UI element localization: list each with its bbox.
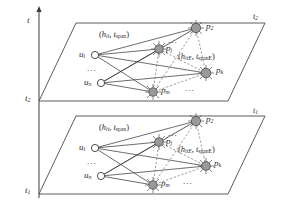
- lower-user-ellipsis: ...: [87, 157, 97, 166]
- axis-tick-t1: t1: [25, 186, 30, 196]
- axis-tick-t1-sub: 1: [28, 189, 31, 195]
- upper-page-node-pm: [145, 84, 161, 100]
- lower-secondary-close: ): [212, 144, 215, 154]
- upper-user-ellipsis: ...: [87, 64, 97, 73]
- upper-label-pj: pj: [166, 44, 172, 54]
- upper-page-node-p2: [188, 20, 204, 36]
- upper-label-p2: p2: [206, 22, 213, 32]
- lower-primary-close: ): [126, 122, 129, 132]
- lower-label-pk: pk: [214, 159, 221, 169]
- axis-arrow-icon: [36, 6, 41, 12]
- lower-page-node-pm: [145, 177, 161, 193]
- upper-pk-sub: k: [221, 69, 224, 75]
- upper-ui-sub: i: [84, 53, 86, 59]
- upper-plane-group: [39, 20, 265, 101]
- upper-label-pm: pm: [161, 86, 170, 96]
- upper-page-ellipsis-bottom: ...: [185, 84, 195, 93]
- lower-label-pm: pm: [161, 179, 170, 189]
- upper-user-node-un: [97, 79, 104, 86]
- upper-pj-sub: j: [171, 47, 173, 53]
- diagram-svg: [0, 0, 301, 203]
- upper-secondary-t-sub: spanE: [198, 55, 212, 61]
- lower-plane-label-sub: 1: [255, 109, 258, 115]
- upper-label-ui: ui: [79, 50, 85, 60]
- upper-pm-sub: m: [166, 89, 170, 95]
- upper-plane-label-sub: 2: [255, 15, 258, 21]
- figure-canvas: t t2 t1 t2 t1 (hit, tspan) (hitE, tspanE…: [0, 0, 301, 203]
- upper-p2-sub: 2: [211, 25, 214, 31]
- lower-plane-label: t1: [253, 107, 258, 115]
- lower-page-node-p2: [188, 113, 204, 129]
- upper-edge-label-primary: (hit, tspan): [99, 30, 129, 40]
- lower-plane-group: [39, 113, 265, 194]
- upper-label-un: un: [84, 78, 91, 88]
- lower-edge-label-primary: (hit, tspan): [99, 123, 129, 133]
- lower-page-ellipsis-bottom: ...: [183, 177, 193, 186]
- upper-un-sub: n: [89, 81, 92, 87]
- time-axis-group: [36, 6, 41, 198]
- upper-edge-label-secondary: (hitE, tspanE): [178, 52, 215, 62]
- upper-plane-label: t2: [253, 13, 258, 21]
- upper-label-pk: pk: [216, 66, 223, 76]
- lower-label-un: un: [84, 171, 91, 181]
- upper-page-node-pk: [198, 65, 214, 81]
- upper-page-node-pj: [151, 41, 167, 57]
- upper-secondary-close: ): [212, 51, 215, 61]
- lower-user-node-ui: [91, 144, 98, 151]
- lower-edge-label-secondary: (hitE, tspanE): [178, 145, 215, 155]
- axis-tick-t2: t2: [25, 94, 30, 104]
- axis-tick-t2-sub: 2: [28, 97, 31, 103]
- lower-ui-sub: i: [84, 146, 86, 152]
- lower-pk-sub: k: [219, 162, 222, 168]
- lower-page-ellipsis-top: ...: [168, 129, 178, 138]
- lower-label-p2: p2: [206, 115, 213, 125]
- upper-user-node-ui: [91, 51, 98, 58]
- lower-page-node-pk: [198, 158, 214, 174]
- lower-p2-sub: 2: [211, 118, 214, 124]
- lower-user-node-un: [97, 172, 104, 179]
- lower-un-sub: n: [89, 174, 92, 180]
- upper-primary-t-sub: span: [116, 33, 126, 39]
- upper-page-ellipsis-top: ...: [168, 36, 178, 45]
- upper-primary-close: ): [126, 29, 129, 39]
- lower-secondary-t-sub: spanE: [198, 148, 212, 154]
- lower-primary-t-sub: span: [116, 126, 126, 132]
- lower-pm-sub: m: [166, 182, 170, 188]
- lower-label-pj: pj: [166, 137, 172, 147]
- axis-label-t: t: [27, 16, 30, 25]
- lower-page-node-pj: [151, 134, 167, 150]
- lower-label-ui: ui: [79, 143, 85, 153]
- lower-pj-sub: j: [171, 140, 173, 146]
